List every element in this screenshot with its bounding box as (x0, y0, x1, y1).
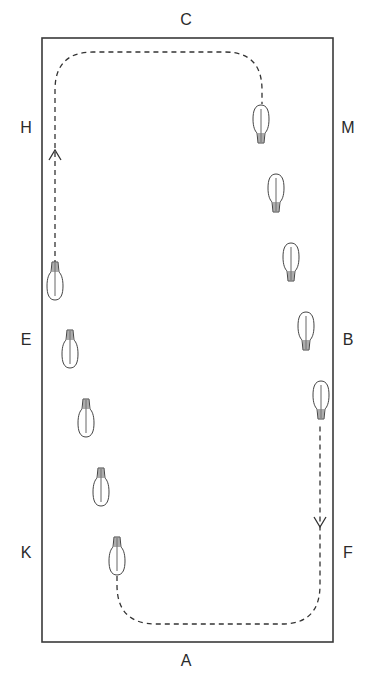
arena-marker-h: H (16, 119, 36, 137)
horse-icon (78, 399, 94, 437)
arena-figure (0, 0, 372, 698)
horse-icon (93, 468, 109, 506)
arena-marker-f: F (338, 544, 358, 562)
route-top (55, 52, 262, 265)
horse-icon (283, 243, 299, 281)
route-bottom (117, 425, 320, 624)
horse-icon (268, 174, 284, 212)
horse-icon (298, 312, 314, 350)
arena-marker-m: M (338, 119, 358, 137)
horse-icon (62, 330, 78, 368)
arena-marker-k: K (16, 544, 36, 562)
arena-marker-e: E (16, 331, 36, 349)
horse-icon (253, 105, 269, 143)
arena-marker-a: A (176, 652, 196, 670)
arena-marker-b: B (338, 331, 358, 349)
horse-icon (109, 537, 125, 575)
arena-border (42, 38, 333, 642)
horse-icon (47, 262, 63, 300)
horse-icon (313, 381, 329, 419)
arena-marker-c: C (176, 11, 196, 29)
dressage-arena-diagram: CHMEBKFA (0, 0, 372, 698)
